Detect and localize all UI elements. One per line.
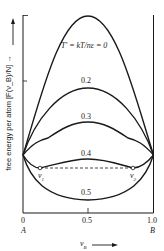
x-arrow-head-icon bbox=[112, 243, 118, 247]
y-arrow-head-icon bbox=[11, 18, 15, 24]
x-axis-label: νB bbox=[80, 240, 87, 251]
x-axis-label-sub: B bbox=[84, 245, 87, 250]
label-curve-t02: 0.2 bbox=[81, 77, 91, 85]
label-v1-sub: 1 bbox=[42, 177, 45, 182]
label-curve-t03: 0.3 bbox=[81, 113, 91, 121]
free-energy-chart bbox=[0, 0, 164, 251]
curve-t0 bbox=[23, 16, 154, 155]
x-end-label-b: B bbox=[150, 227, 155, 235]
x-tick-label-05: 0.5 bbox=[82, 217, 92, 225]
label-curve-t05: 0.5 bbox=[81, 189, 91, 197]
v2-point bbox=[131, 166, 135, 170]
label-curve-t04: 0.4 bbox=[81, 150, 91, 158]
label-curve-t0: T' = kT/nε = 0 bbox=[61, 42, 107, 50]
x-tick-label-0: 0 bbox=[21, 217, 25, 225]
label-v2-sub: 2 bbox=[134, 177, 137, 182]
x-tick-label-10: 1.0 bbox=[147, 217, 157, 225]
x-end-label-a: A bbox=[21, 227, 26, 235]
y-axis-label: free energy per atom [F(ν_B)/N] → bbox=[4, 38, 14, 188]
label-v2: ν2 bbox=[130, 172, 136, 184]
v1-point bbox=[38, 166, 42, 170]
label-v1: ν1 bbox=[38, 172, 44, 184]
